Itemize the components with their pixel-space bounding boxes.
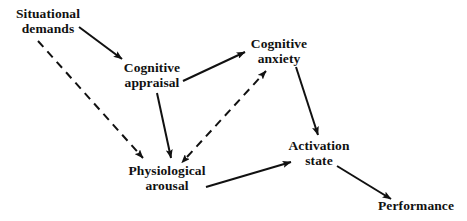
edge-appraisal-to-anxiety [183, 52, 245, 81]
node-performance: Performance [378, 198, 464, 213]
node-cognitive-appraisal: Cognitive appraisal [114, 60, 190, 90]
edge-situational-to-arousal [38, 41, 143, 158]
node-cognitive-anxiety: Cognitive anxiety [242, 36, 316, 66]
edge-arousal-to-activation [206, 162, 291, 187]
edge-activation-to-performance [337, 166, 391, 199]
node-situational-demands: Situational demands [6, 6, 90, 36]
edge-anxiety-arousal-bidir [187, 71, 266, 157]
node-physiological-arousal: Physiological arousal [122, 163, 212, 193]
edge-anxiety-to-activation [296, 67, 318, 135]
node-activation-state: Activation state [284, 138, 354, 168]
diagram-canvas: Situational demands Cognitive appraisal … [0, 0, 467, 221]
edge-appraisal-to-arousal [157, 93, 171, 158]
